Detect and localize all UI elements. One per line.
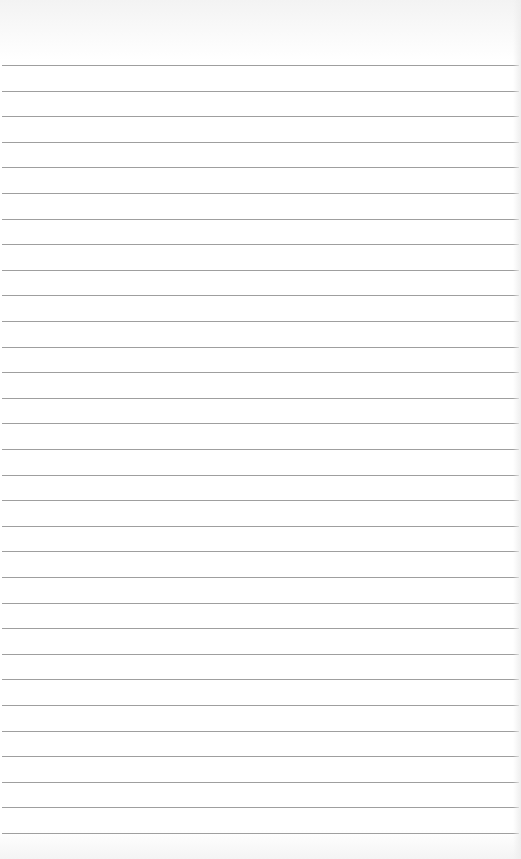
ruled-line [2, 628, 519, 629]
ruled-line [2, 142, 519, 143]
ruled-line [2, 270, 519, 271]
ruled-line [2, 500, 519, 501]
ruled-line [2, 167, 519, 168]
ruled-line [2, 475, 519, 476]
ruled-line [2, 65, 519, 66]
ruled-line [2, 321, 519, 322]
ruled-line [2, 756, 519, 757]
ruled-line [2, 91, 519, 92]
lined-paper [0, 0, 521, 859]
ruled-line [2, 577, 519, 578]
ruled-line [2, 372, 519, 373]
ruled-line [2, 731, 519, 732]
ruled-line [2, 526, 519, 527]
ruled-line [2, 603, 519, 604]
paper-edge-shadow [513, 0, 521, 859]
ruled-line [2, 833, 519, 834]
ruled-line [2, 679, 519, 680]
ruled-line [2, 423, 519, 424]
ruled-line [2, 347, 519, 348]
ruled-line [2, 654, 519, 655]
ruled-line [2, 449, 519, 450]
ruled-line [2, 193, 519, 194]
ruled-line [2, 705, 519, 706]
ruled-line [2, 807, 519, 808]
ruled-line [2, 551, 519, 552]
ruled-line [2, 116, 519, 117]
ruled-line [2, 295, 519, 296]
ruled-line [2, 782, 519, 783]
ruled-line [2, 219, 519, 220]
ruled-line [2, 398, 519, 399]
ruled-line [2, 244, 519, 245]
